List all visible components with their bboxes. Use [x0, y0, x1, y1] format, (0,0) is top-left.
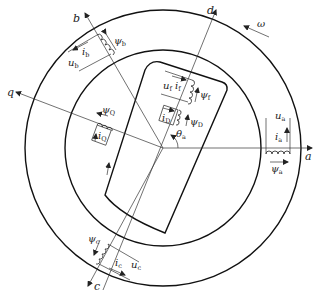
- winding-damper-q: ψQ iQ: [92, 104, 116, 145]
- theta-angle: θa: [171, 128, 186, 148]
- a-axis-label: a: [305, 150, 312, 163]
- psi-c-label: ψc: [88, 233, 100, 246]
- psi-a-label: ψa: [271, 163, 283, 176]
- q-axis-label: q: [7, 86, 14, 99]
- rotor-direction-arrow: [107, 163, 109, 175]
- i-d-label: iD: [162, 112, 170, 125]
- theta-label: θa: [176, 128, 186, 141]
- u-f-label: uf: [163, 80, 172, 93]
- winding-damper-d: iD ψD: [159, 105, 203, 129]
- i-q-label: iQ: [98, 130, 107, 143]
- b-axis-label: b: [73, 12, 80, 25]
- i-a-label: ia: [275, 131, 282, 144]
- psi-f-label: ψf: [200, 89, 211, 102]
- winding-a: ua ia ψa: [266, 110, 290, 176]
- i-c-label: ic: [115, 257, 122, 270]
- rotation-omega-indicator: ω: [244, 18, 269, 37]
- machine-diagram: a b c d q ω θa ua ia ψa: [0, 0, 319, 293]
- d-axis-label: d: [207, 4, 214, 17]
- c-axis-label: c: [94, 280, 100, 293]
- u-a-label: ua: [275, 110, 285, 123]
- psi-b-label: ψb: [114, 35, 126, 48]
- i-b-label: ib: [82, 46, 89, 59]
- winding-c: ψc ic uc: [88, 233, 141, 280]
- u-c-label: uc: [131, 259, 141, 272]
- q-axis: q: [7, 86, 163, 148]
- i-f-label: if: [175, 80, 181, 93]
- u-b-label: ub: [68, 57, 79, 70]
- omega-label: ω: [257, 18, 265, 29]
- psi-d-label: ψD: [190, 116, 203, 129]
